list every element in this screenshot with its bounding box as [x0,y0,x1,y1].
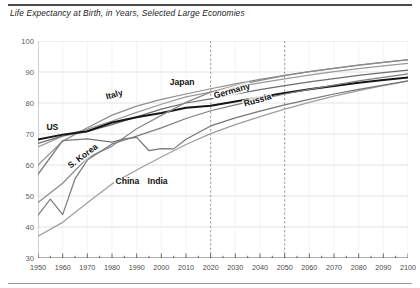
page-title: Life Expectancy at Birth, in Years, Sele… [10,8,245,18]
y-tick-label: 50 [12,192,34,201]
annotation-vlines [211,41,285,258]
series-label-india: India [147,177,169,186]
y-tick-label: 40 [12,223,34,232]
series-line-germany [38,70,408,143]
series-line-s-korea [38,60,408,203]
y-tick-label: 100 [12,37,34,46]
bottom-divider [8,283,412,284]
chart-screenshot: Life Expectancy at Birth, in Years, Sele… [0,0,420,288]
series-label-china: China [114,177,140,186]
x-axis-ticks [38,254,408,259]
y-tick-label: 30 [12,254,34,263]
y-tick-label: 80 [12,99,34,108]
y-tick-label: 90 [12,68,34,77]
series-label-us: US [45,123,59,132]
x-tick-label: 2100 [391,263,420,272]
y-tick-label: 70 [12,130,34,139]
y-tick-label: 60 [12,161,34,170]
top-divider [8,4,412,6]
series-label-japan: Japan [169,78,196,87]
